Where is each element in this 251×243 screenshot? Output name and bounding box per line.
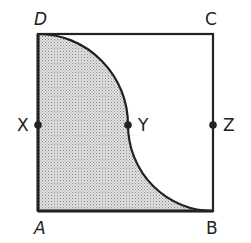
- point-Z: [209, 121, 217, 129]
- label-Z: Z: [223, 115, 235, 135]
- label-C: C: [205, 9, 217, 29]
- label-X: X: [17, 115, 29, 135]
- label-A: A: [33, 218, 46, 238]
- geometry-diagram: D C A B X Y Z: [0, 0, 251, 243]
- label-B: B: [206, 218, 218, 238]
- label-Y: Y: [137, 115, 149, 135]
- point-Y: [124, 121, 132, 129]
- label-D: D: [34, 9, 47, 29]
- point-X: [34, 121, 42, 129]
